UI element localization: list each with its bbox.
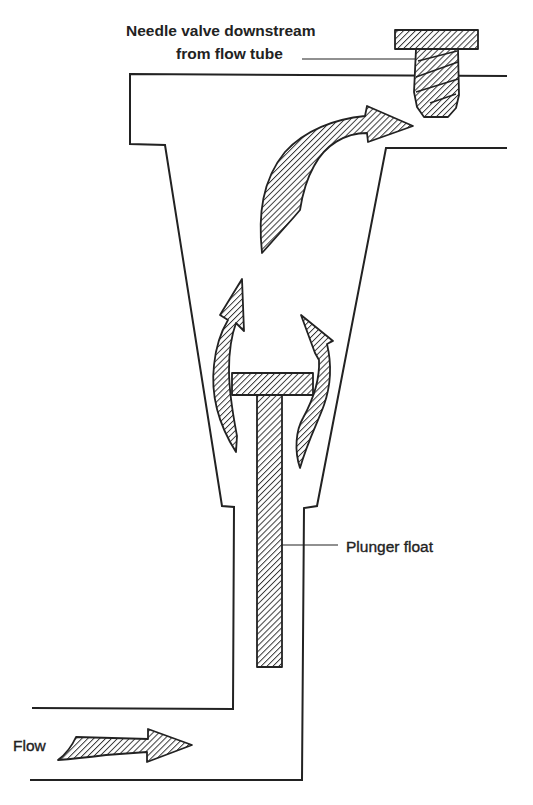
needle-valve: [395, 30, 478, 117]
needle-valve-body: [414, 49, 459, 117]
needle-valve-cap: [395, 30, 478, 49]
inlet-flow-arrow: [58, 729, 192, 762]
plunger-float-head: [232, 373, 313, 395]
flow-label: Flow: [13, 738, 46, 754]
needle-valve-label-line1: Needle valve downstream: [126, 23, 316, 39]
outlet-flow-arrow: [261, 106, 413, 253]
plunger-float-stem: [257, 395, 282, 667]
needle-valve-label-line2: from flow tube: [176, 46, 283, 62]
plunger-float: [232, 373, 313, 667]
flow-tube-diagram: [0, 0, 533, 805]
bypass-flow-arrow-left: [213, 279, 244, 452]
plunger-float-label: Plunger float: [346, 539, 433, 555]
